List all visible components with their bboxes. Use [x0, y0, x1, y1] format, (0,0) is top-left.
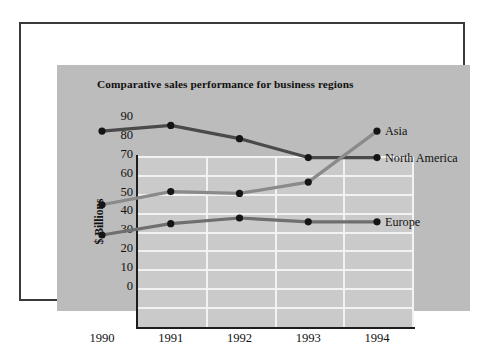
chart-panel: Comparative sales performance for busine…	[57, 65, 470, 311]
data-point-marker	[373, 218, 380, 225]
data-point-marker	[373, 128, 380, 135]
data-point-marker	[305, 154, 312, 161]
data-point-marker	[98, 231, 105, 238]
series-label-north-america: North America	[385, 151, 458, 166]
data-point-marker	[98, 201, 105, 208]
series-label-asia: Asia	[385, 124, 407, 139]
data-point-marker	[167, 220, 174, 227]
data-point-marker	[167, 122, 174, 129]
data-point-marker	[305, 218, 312, 225]
data-point-marker	[236, 190, 243, 197]
data-point-marker	[167, 188, 174, 195]
data-point-marker	[98, 128, 105, 135]
data-point-marker	[305, 179, 312, 186]
data-point-marker	[236, 214, 243, 221]
series-label-europe: Europe	[385, 215, 420, 230]
data-point-marker	[373, 154, 380, 161]
data-point-marker	[236, 135, 243, 142]
figure-border: Comparative sales performance for busine…	[19, 22, 465, 301]
chart-series-svg	[57, 65, 484, 346]
